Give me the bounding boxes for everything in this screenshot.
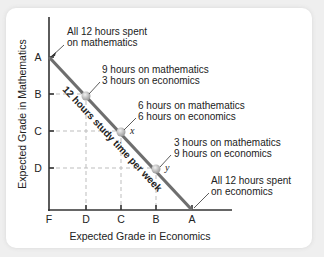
x-tick-b: B [152,213,159,225]
annotation-point-b-line1: 9 hours on mathematics [102,64,209,75]
annotation-bottom-right-line2: on economics [211,186,273,197]
annotation-bottom-right-line1: All 12 hours spent [211,175,291,186]
annotation-point-x-line2: 6 hours on economics [138,111,236,122]
annotation-top-left-line1: All 12 hours spent [67,26,147,37]
x-axis-title: Expected Grade in Economics [69,230,210,242]
x-tick-f: F [46,213,52,225]
study-time-tradeoff-diagram: All 12 hours spent on mathematics 9 hour… [0,0,324,257]
y-tick-a: A [34,51,41,63]
point-label-y: y [164,162,170,173]
y-tick-d: D [34,162,42,174]
x-tick-c: C [117,213,125,225]
annotation-point-y-line1: 3 hours on mathematics [174,137,281,148]
annotation-point-b-line2: 3 hours on economics [102,75,200,86]
annotation-top-left-line2: on mathematics [67,37,138,48]
x-tick-a: A [188,213,195,225]
y-axis-title: Expected Grade in Mathematics [16,39,28,188]
point-label-x: x [129,125,135,136]
annotation-point-y-line2: 9 hours on economics [174,148,272,159]
point-y [152,165,161,174]
y-tick-b: B [34,88,41,100]
x-tick-d: D [82,213,90,225]
y-tick-c: C [34,125,42,137]
annotation-point-x-line1: 6 hours on mathematics [138,100,245,111]
